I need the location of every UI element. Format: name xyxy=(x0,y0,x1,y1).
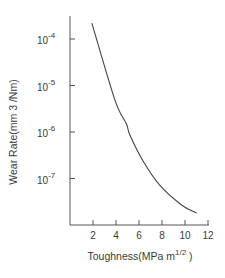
y-axis-title: Wear Rate(mm 3 /Nm) xyxy=(7,79,19,184)
x-tick-label: 10 xyxy=(179,230,191,241)
chart: 10-410-510-610-7 24681012 Wear Rate(mm 3… xyxy=(0,0,225,278)
x-axis-title: Toughness(MPa m1/2 ) xyxy=(87,248,192,262)
y-tick-label: 10-6 xyxy=(37,124,56,139)
data-curve xyxy=(92,23,197,213)
x-tick-label: 4 xyxy=(113,230,119,241)
x-tick-label: 8 xyxy=(159,230,165,241)
y-ticks: 10-410-510-610-7 xyxy=(37,31,75,186)
x-tick-label: 2 xyxy=(90,230,96,241)
x-ticks: 24681012 xyxy=(90,220,214,241)
x-tick-label: 12 xyxy=(202,230,214,241)
y-tick-label: 10-7 xyxy=(37,171,56,186)
x-tick-label: 6 xyxy=(136,230,142,241)
y-tick-label: 10-4 xyxy=(37,31,56,46)
y-tick-label: 10-5 xyxy=(37,78,56,93)
